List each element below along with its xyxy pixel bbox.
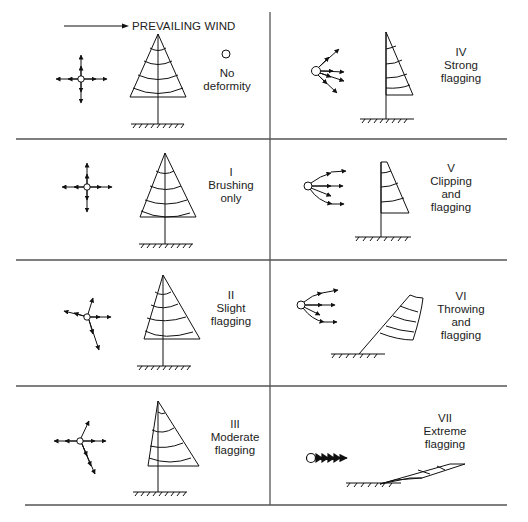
label-line: flagging [432, 329, 490, 342]
arrow-right-icon [64, 24, 129, 29]
label-line: flagging [434, 72, 488, 85]
wind-rose-clipping [304, 171, 346, 204]
class-numeral: III [208, 418, 262, 431]
class-numeral: IV [434, 46, 488, 59]
label-line: flagging [416, 438, 474, 451]
label-no-deformity: No deformity [200, 67, 254, 93]
label-line: only [205, 192, 257, 205]
class-numeral: VII [416, 412, 474, 425]
label-class-v: V Clipping and flagging [424, 162, 478, 214]
label-line: flagging [424, 201, 478, 214]
tree-symmetric [130, 34, 186, 128]
label-line: Throwing [432, 303, 490, 316]
label-line: Slight [205, 302, 257, 315]
label-class-vi: VI Throwing and flagging [432, 290, 490, 342]
label-class-vii: VII Extreme flagging [416, 412, 474, 451]
class-numeral: I [205, 166, 257, 179]
tree-brushing [139, 153, 196, 248]
label-class-iv: IV Strong flagging [434, 46, 488, 85]
label-line: and [424, 188, 478, 201]
wind-rose-extreme [307, 454, 348, 463]
label-line: Brushing [205, 179, 257, 192]
tree-moderate-flagging [133, 401, 199, 496]
label-line: and [432, 316, 490, 329]
label-line: Strong [434, 59, 488, 72]
label-class-i: I Brushing only [205, 166, 257, 205]
prevailing-wind-label: PREVAILING WIND [132, 20, 236, 32]
label-line: Moderate [208, 431, 262, 444]
label-line: Extreme [416, 425, 474, 438]
label-line: deformity [200, 80, 254, 93]
label-line: flagging [205, 315, 257, 328]
small-circle-icon [222, 50, 230, 58]
class-numeral: V [424, 162, 478, 175]
wind-rose-brushing [62, 163, 112, 212]
label-class-ii: II Slight flagging [205, 289, 257, 328]
tree-extreme-flagging [346, 464, 465, 487]
label-line: No [200, 67, 254, 80]
wind-rose-strong [312, 49, 345, 93]
wind-rose-moderate [54, 421, 106, 474]
tree-slight-flagging [137, 275, 200, 370]
tree-strong-flagging [360, 32, 414, 123]
label-line: Clipping [424, 175, 478, 188]
wind-rose-throwing [297, 290, 338, 322]
tree-clipping-flagging [355, 162, 411, 241]
tree-throwing-flagging [331, 295, 423, 358]
class-numeral: II [205, 289, 257, 302]
wind-rose-no-deformity [56, 55, 107, 103]
label-line: flagging [208, 444, 262, 457]
wind-rose-slight [64, 298, 111, 350]
class-numeral: VI [432, 290, 490, 303]
label-class-iii: III Moderate flagging [208, 418, 262, 457]
